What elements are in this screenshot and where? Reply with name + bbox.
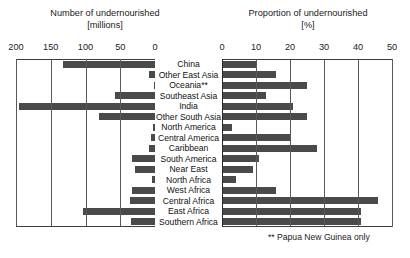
left-panel-title: Number of undernourished [millions] [10, 8, 200, 31]
gridline-right-30 [324, 59, 325, 227]
bar-row [222, 185, 392, 196]
bar-row [222, 154, 392, 165]
bar-row [222, 217, 392, 228]
bar [19, 103, 155, 110]
gridline-left-50 [120, 59, 121, 227]
gridline-left-200 [16, 59, 17, 227]
bar-row [222, 112, 392, 123]
bar [132, 155, 155, 162]
bar [222, 82, 307, 89]
category-label-column: ChinaOther East AsiaOceania**Southeast A… [155, 59, 222, 227]
bar-row [222, 122, 392, 133]
tick-label-right-30: 30 [319, 41, 329, 53]
gridline-right-40 [358, 59, 359, 227]
bar-row [222, 91, 392, 102]
bar [131, 218, 155, 225]
gridline-right-20 [290, 59, 291, 227]
bar [63, 61, 155, 68]
category-label: Near East [155, 164, 222, 175]
bar [99, 113, 155, 120]
left-plot-area [16, 59, 155, 227]
tick-label-right-20: 20 [285, 41, 295, 53]
gridline-right-0 [222, 59, 223, 227]
tick-label-right-50: 50 [387, 41, 397, 53]
tick-label-right-10: 10 [251, 41, 261, 53]
right-panel-title-text: Proportion of undernourished [248, 8, 367, 18]
bar-row [222, 80, 392, 91]
category-label: West Africa [155, 185, 222, 196]
category-label: Other South Asia [155, 112, 222, 123]
bar [222, 208, 361, 215]
bar [222, 187, 276, 194]
bar [222, 155, 259, 162]
category-label: Other East Asia [155, 70, 222, 81]
bar [222, 176, 236, 183]
gridline-right-10 [256, 59, 257, 227]
bar-row [222, 206, 392, 217]
bar [222, 218, 361, 225]
bar [132, 187, 155, 194]
tick-label-right-0: 0 [219, 41, 224, 53]
category-label: Oceania** [155, 80, 222, 91]
right-plot-area [222, 59, 392, 227]
right-panel-unit: [%] [212, 20, 404, 32]
category-label: South America [155, 154, 222, 165]
bar [222, 166, 253, 173]
bar [135, 166, 155, 173]
bar [222, 145, 317, 152]
bar [222, 71, 276, 78]
category-label: North America [155, 122, 222, 133]
bar-row [222, 101, 392, 112]
right-axis-tick-labels: 01020304050 [0, 41, 410, 53]
bar-row [222, 59, 392, 70]
category-label: Southeast Asia [155, 91, 222, 102]
bar-row [222, 70, 392, 81]
bar-row [222, 196, 392, 207]
category-label: China [155, 59, 222, 70]
bar-row [222, 175, 392, 186]
tick-label-right-40: 40 [353, 41, 363, 53]
left-panel-title-text: Number of undernourished [50, 8, 159, 18]
chart-figure: Number of undernourished [millions] Prop… [0, 0, 410, 258]
bar [222, 61, 256, 68]
right-panel-title: Proportion of undernourished [%] [212, 8, 404, 31]
category-label: East Africa [155, 206, 222, 217]
left-panel-unit: [millions] [10, 20, 200, 32]
bar-row [222, 164, 392, 175]
gridline-left-100 [86, 59, 87, 227]
bar-row [222, 143, 392, 154]
category-label: North Africa [155, 175, 222, 186]
bar [83, 208, 155, 215]
bar [222, 124, 232, 131]
bar [222, 92, 266, 99]
bar-row [222, 133, 392, 144]
category-label: Central Africa [155, 196, 222, 207]
category-label: India [155, 101, 222, 112]
category-label: Southern Africa [155, 217, 222, 228]
bar [222, 197, 378, 204]
bar [222, 103, 293, 110]
bar [130, 197, 155, 204]
category-label: Central America [155, 133, 222, 144]
chart-footnote: ** Papua New Guinea only [268, 232, 370, 243]
right-bar-group [222, 59, 392, 227]
gridline-left-150 [51, 59, 52, 227]
category-label: Caribbean [155, 143, 222, 154]
gridline-right-50 [392, 59, 393, 227]
bar [222, 113, 307, 120]
